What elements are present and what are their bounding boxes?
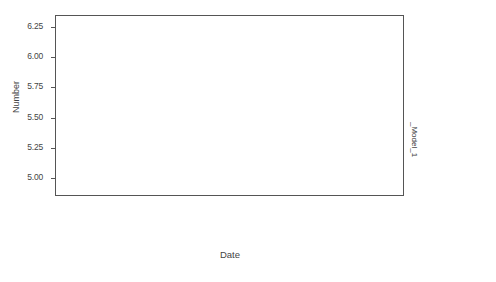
x-axis xyxy=(0,196,496,256)
y-axis-tick-label: 5.00 xyxy=(27,172,43,182)
plot-svg xyxy=(56,16,403,195)
y-axis-tick-label: 5.75 xyxy=(27,81,43,91)
y-axis-title: Number xyxy=(11,67,21,127)
y-axis-tick-label: 5.25 xyxy=(27,142,43,152)
legend-title-model: _Model_1 xyxy=(410,122,419,157)
chart-root: 6.256.005.755.505.255.00 Number Date _Mo… xyxy=(0,0,496,282)
y-axis-tick-label: 6.25 xyxy=(27,21,43,31)
y-axis-tick-label: 6.00 xyxy=(27,51,43,61)
plot-area xyxy=(55,15,404,196)
x-axis-title: Date xyxy=(0,249,460,260)
y-axis-tick-label: 5.50 xyxy=(27,112,43,122)
